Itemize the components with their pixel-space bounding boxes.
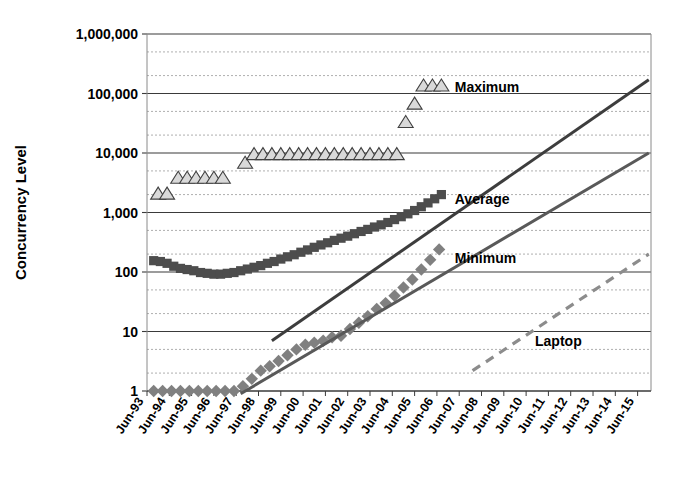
y-axis-tick-label: 1,000,000 [76,26,138,42]
annotation-minimum: Minimum [455,250,516,266]
annotation-average: Average [455,191,510,207]
y-axis-tick-label: 100 [115,264,139,280]
y-axis-tick-label: 1,000 [103,205,138,221]
data-point-square [437,190,446,199]
y-axis-title: Concurrency Level [12,145,29,280]
x-axis: Jun-93Jun-94Jun-95Jun-96Jun-97Jun-98Jun-… [113,391,638,436]
annotation-maximum: Maximum [455,79,520,95]
y-axis-tick-label: 10,000 [95,145,138,161]
chart-canvas: 1101001,00010,000100,0001,000,000Jun-93J… [0,0,683,487]
y-axis-tick-label: 100,000 [87,86,138,102]
y-axis-tick-label: 10 [122,324,138,340]
annotation-laptop: Laptop [535,333,582,349]
concurrency-level-chart: 1101001,00010,000100,0001,000,000Jun-93J… [0,0,683,487]
